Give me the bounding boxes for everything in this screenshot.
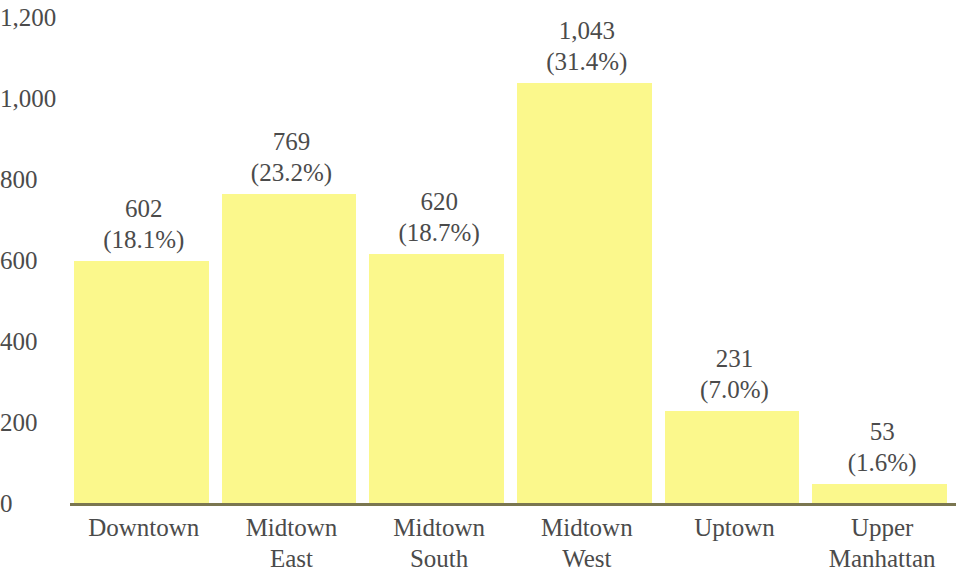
bar-value: 602 <box>125 195 163 222</box>
y-tick-label: 1,000 <box>0 86 62 111</box>
category-label-midtown-east: MidtownEast <box>218 512 366 574</box>
category-label-line: Downtown <box>70 512 218 543</box>
bar-midtown-west[interactable] <box>517 83 652 505</box>
category-label-line: Midtown <box>513 512 661 543</box>
plot-area: 602 (18.1%) 769 (23.2%) 620 (18.7%) 1,04… <box>70 0 956 505</box>
category-label-uptown: Uptown <box>661 512 809 543</box>
category-label-line: Uptown <box>661 512 809 543</box>
category-label-line: Midtown <box>365 512 513 543</box>
bar-label: 769 (23.2%) <box>218 126 366 188</box>
bar-value: 620 <box>420 188 458 215</box>
y-tick-label: 1,200 <box>0 5 62 30</box>
category-label-midtown-west: MidtownWest <box>513 512 661 574</box>
category-label-line: Upper <box>808 512 956 543</box>
category-label-line: West <box>513 543 661 574</box>
category-label-line: Midtown <box>218 512 366 543</box>
bar-slot: 602 (18.1%) <box>70 0 218 505</box>
bar-midtown-south[interactable] <box>369 254 504 505</box>
bar-slot: 620 (18.7%) <box>365 0 513 505</box>
bar-percent: (18.1%) <box>103 226 184 253</box>
bar-slot: 1,043 (31.4%) <box>513 0 661 505</box>
bar-uptown[interactable] <box>665 411 800 505</box>
category-label-line: East <box>218 543 366 574</box>
category-label-upper-manhattan: UpperManhattan <box>808 512 956 574</box>
category-label-line: Manhattan <box>808 543 956 574</box>
bar-percent: (18.7%) <box>399 219 480 246</box>
bar-label: 620 (18.7%) <box>365 186 513 248</box>
bar-value: 231 <box>716 345 754 372</box>
bar-slot: 769 (23.2%) <box>218 0 366 505</box>
category-label-line: South <box>365 543 513 574</box>
bar-label: 602 (18.1%) <box>70 193 218 255</box>
y-tick-label: 600 <box>0 248 62 273</box>
y-tick-label: 800 <box>0 167 62 192</box>
bar-label: 1,043 (31.4%) <box>513 15 661 77</box>
bar-midtown-east[interactable] <box>222 194 357 505</box>
bar-value: 1,043 <box>559 17 615 44</box>
category-label-midtown-south: MidtownSouth <box>365 512 513 574</box>
bar-label: 231 (7.0%) <box>661 343 809 405</box>
bar-chart: 1,200 1,000 800 600 400 200 0 602 (18.1%… <box>0 0 956 580</box>
bar-percent: (31.4%) <box>546 48 627 75</box>
bar-percent: (7.0%) <box>700 376 769 403</box>
bar-upper-manhattan[interactable] <box>812 484 947 505</box>
x-axis-line <box>70 503 956 506</box>
bar-slot: 231 (7.0%) <box>661 0 809 505</box>
bar-percent: (23.2%) <box>251 159 332 186</box>
bar-value: 53 <box>870 418 895 445</box>
bar-value: 769 <box>273 128 311 155</box>
y-tick-label: 200 <box>0 410 62 435</box>
bar-downtown[interactable] <box>74 261 209 505</box>
y-tick-label: 400 <box>0 329 62 354</box>
y-tick-label: 0 <box>0 491 62 516</box>
bar-percent: (1.6%) <box>848 449 917 476</box>
bar-label: 53 (1.6%) <box>808 416 956 478</box>
x-axis-categories: Downtown MidtownEast MidtownSouth Midtow… <box>70 512 956 580</box>
bar-slot: 53 (1.6%) <box>808 0 956 505</box>
category-label-downtown: Downtown <box>70 512 218 543</box>
